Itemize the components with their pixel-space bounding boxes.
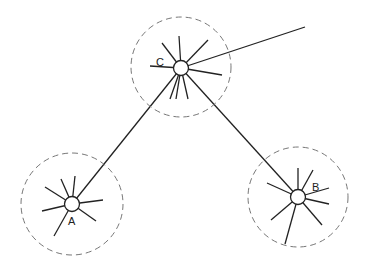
spokes-b: [267, 168, 329, 244]
node-c: C: [131, 17, 231, 117]
link-c-a: [72, 68, 181, 204]
node-a: A: [21, 153, 123, 255]
node-b: B: [248, 147, 348, 247]
node-circle-b: [291, 190, 306, 205]
node-circle-c: [174, 61, 189, 76]
node-label-c: C: [156, 56, 164, 68]
node-label-a: A: [68, 215, 76, 227]
node-label-b: B: [312, 181, 319, 193]
network-diagram: C A B: [0, 0, 368, 271]
link-c-b: [181, 68, 298, 197]
link-c-external: [181, 27, 305, 68]
links: [72, 27, 305, 204]
node-circle-a: [65, 197, 80, 212]
